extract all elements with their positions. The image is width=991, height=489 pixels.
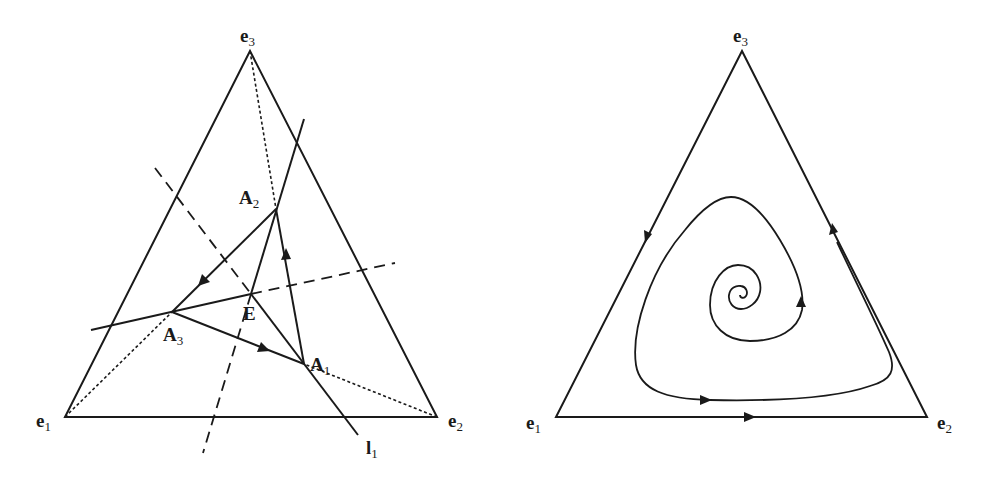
arrow-right-icon — [700, 395, 712, 405]
right-arrows — [644, 223, 838, 422]
left-arrows — [198, 248, 291, 352]
label-A3: A3 — [163, 324, 183, 348]
label-e3-left: e3 — [240, 25, 255, 49]
label-e3-right: e3 — [733, 25, 748, 49]
right-panel — [556, 51, 927, 417]
label-A2: A2 — [239, 187, 259, 211]
dashed-line-right — [251, 263, 395, 294]
label-E: E — [243, 303, 256, 324]
arrow-right-icon — [744, 412, 756, 422]
label-l1: l1 — [366, 437, 378, 461]
line-l1 — [251, 294, 358, 435]
left-labels: e3 e1 e2 A2 A3 A1 E l1 — [36, 25, 463, 461]
label-e2-left: e2 — [448, 410, 463, 434]
edge-A1-A2 — [276, 209, 304, 364]
arrow-up-icon — [796, 296, 806, 307]
right-labels: e3 e1 e2 — [526, 25, 952, 436]
left-panel — [65, 51, 437, 453]
figure: e3 e1 e2 A2 A3 A1 E l1 e3 e1 e2 — [0, 0, 991, 489]
label-A1: A1 — [310, 354, 330, 378]
spiral-orbit — [635, 197, 892, 400]
dotted-e1-A3 — [65, 312, 172, 417]
label-e1-right: e1 — [526, 412, 541, 436]
right-simplex-triangle — [556, 51, 927, 417]
label-e2-right: e2 — [937, 412, 952, 436]
label-e1-left: e1 — [36, 410, 51, 434]
